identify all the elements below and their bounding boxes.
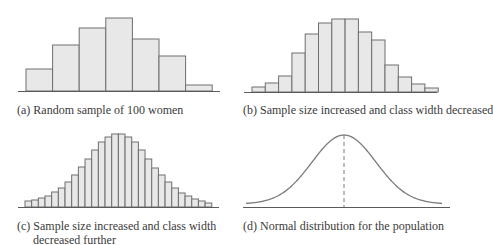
caption-d: (d) Normal distribution for the populati… bbox=[243, 219, 444, 233]
